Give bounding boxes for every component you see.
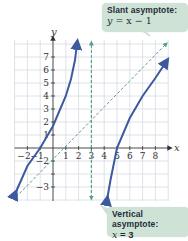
x-tick-label: −2 <box>17 151 30 161</box>
x-tick-label: 6 <box>127 151 133 161</box>
x-tick-label: 1 <box>63 151 69 161</box>
y-tick-label: 4 <box>43 91 49 101</box>
vertical-asymptote-equation: x = 3 <box>112 229 184 241</box>
y-tick-label: 6 <box>43 65 49 75</box>
y-tick-label: 3 <box>43 104 49 114</box>
slant-asymptote-equation: y = x − 1 <box>107 15 183 27</box>
x-tick-label: 8 <box>153 151 159 161</box>
y-tick-label: 7 <box>43 52 49 62</box>
vertical-asymptote-title: Vertical asymptote: <box>112 209 184 229</box>
slant-asymptote-callout: Slant asymptote: y = x − 1 <box>102 3 188 32</box>
x-tick-label: 7 <box>140 151 146 161</box>
y-tick-label: 2 <box>43 117 49 127</box>
y-axis-label: y <box>50 26 57 37</box>
slant-asymptote-title: Slant asymptote: <box>107 5 183 15</box>
y-tick-label: 5 <box>43 78 49 88</box>
y-tick-label: −2 <box>36 156 49 166</box>
x-tick-label: 4 <box>101 151 107 161</box>
vertical-asymptote-callout: Vertical asymptote: x = 3 <box>107 207 188 237</box>
x-axis-label: x <box>174 142 180 153</box>
graph-canvas: −2 −1 1 2 3 4 5 6 7 8 7 6 5 4 3 2 1 −2 −… <box>0 0 188 241</box>
y-tick-label: −3 <box>36 182 50 192</box>
x-tick-label: 2 <box>76 151 82 161</box>
